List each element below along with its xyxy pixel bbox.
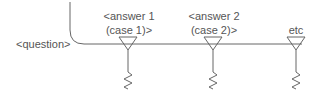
- branch-2-symbol: [204, 37, 222, 89]
- question-connector: [70, 2, 302, 44]
- branch-2-label-line1: <answer 2: [188, 10, 240, 23]
- branch-2-label-line2: (case 2)>: [188, 24, 240, 37]
- branch-1-symbol: [119, 37, 137, 89]
- branch-etc-symbol: [287, 37, 305, 89]
- branch-etc-label: etc: [281, 24, 311, 37]
- branch-1-label-line1: <answer 1: [103, 10, 155, 23]
- question-label: <question>: [16, 38, 70, 51]
- branch-1-label-line2: (case 1)>: [103, 24, 155, 37]
